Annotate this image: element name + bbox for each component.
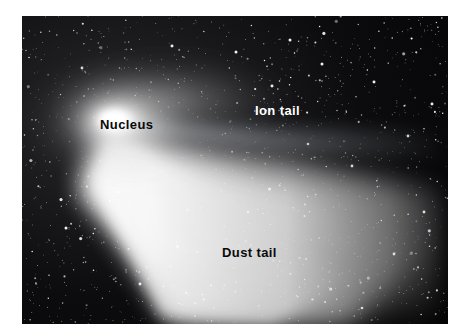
star [198, 48, 199, 49]
star [381, 132, 382, 133]
star [84, 129, 85, 130]
star [217, 117, 218, 118]
star [272, 259, 274, 261]
star [297, 302, 298, 303]
star [109, 200, 111, 202]
star [108, 28, 109, 29]
star [238, 245, 240, 247]
star [78, 174, 80, 176]
star [322, 301, 323, 302]
star [208, 257, 209, 258]
star [182, 309, 183, 310]
star [359, 279, 361, 281]
star [70, 119, 71, 120]
star [219, 321, 220, 322]
star [203, 157, 204, 158]
star [181, 79, 182, 80]
comet-photograph: Nucleus Ion tail Dust tail [22, 16, 448, 324]
star [394, 129, 396, 131]
star [309, 302, 310, 303]
star [351, 159, 352, 160]
star [290, 262, 292, 264]
star [277, 268, 278, 269]
star [227, 60, 228, 61]
star [219, 27, 220, 28]
star [28, 87, 29, 88]
star [428, 233, 429, 234]
star [262, 184, 263, 185]
star [352, 155, 354, 157]
star [211, 22, 212, 23]
star [59, 198, 62, 201]
star [249, 128, 251, 130]
star [178, 303, 180, 305]
star [213, 182, 214, 183]
star [279, 156, 280, 157]
star [230, 196, 231, 197]
star [136, 298, 137, 299]
star [123, 32, 125, 34]
star [306, 41, 307, 42]
star [172, 97, 173, 98]
star [405, 59, 406, 60]
star [255, 158, 256, 159]
star [92, 208, 93, 209]
star [387, 29, 388, 30]
star [224, 90, 225, 91]
star [261, 152, 263, 154]
star [179, 87, 180, 88]
star [332, 32, 333, 33]
star [28, 233, 29, 234]
star [363, 182, 364, 183]
star [36, 48, 37, 49]
star [73, 269, 75, 271]
star [92, 173, 93, 174]
star [424, 30, 425, 31]
star [100, 178, 101, 179]
star [56, 214, 57, 215]
star [384, 127, 386, 129]
star [194, 71, 195, 72]
star [28, 235, 29, 236]
star [308, 292, 309, 293]
star [329, 281, 331, 283]
star [254, 81, 255, 82]
star [286, 190, 287, 191]
star [439, 268, 440, 269]
star [443, 300, 444, 301]
star [41, 59, 42, 60]
star [378, 30, 380, 32]
star [281, 163, 282, 164]
star [35, 97, 36, 98]
star [91, 39, 92, 40]
star [277, 275, 279, 277]
star [49, 284, 50, 285]
star [215, 169, 217, 171]
star [196, 167, 197, 168]
star [345, 110, 347, 112]
star [203, 298, 205, 300]
star [321, 156, 322, 157]
star [262, 76, 263, 77]
star [422, 17, 423, 18]
star [379, 242, 381, 244]
star [356, 118, 357, 119]
star [149, 192, 150, 193]
star [202, 158, 203, 159]
star [196, 22, 197, 23]
star [214, 138, 215, 139]
star [268, 89, 269, 90]
star [65, 58, 66, 59]
star [234, 219, 235, 220]
star [199, 142, 200, 143]
star [210, 284, 212, 286]
star [396, 102, 397, 103]
star [155, 217, 157, 219]
star [414, 132, 415, 133]
star [261, 78, 263, 80]
star [378, 222, 379, 223]
star [217, 100, 218, 101]
star [37, 72, 38, 73]
star [254, 37, 256, 39]
star [330, 263, 332, 265]
